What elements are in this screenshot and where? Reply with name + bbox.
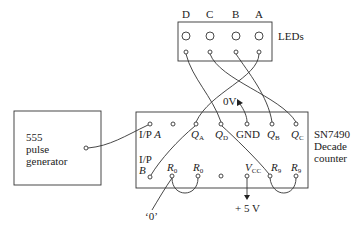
arrow-0v-icon bbox=[237, 99, 243, 106]
pin-nc-top bbox=[171, 122, 175, 126]
pin-qd bbox=[219, 122, 223, 126]
wire-0v-to-gnd bbox=[240, 104, 247, 122]
label-r0-2-r: R bbox=[193, 161, 200, 173]
wire-r9-loop bbox=[270, 178, 296, 193]
counter-line-3: counter bbox=[314, 152, 350, 164]
label-qd-sub: D bbox=[223, 134, 228, 142]
counter-line-1: SN7490 bbox=[314, 128, 350, 140]
label-r9-2-sub: 9 bbox=[298, 167, 302, 175]
label-r0-1: R0 bbox=[167, 162, 177, 177]
led-label-a: A bbox=[255, 9, 263, 20]
label-qa-q: Q bbox=[191, 128, 199, 140]
pulse-generator-label: 555 pulse generator bbox=[26, 131, 68, 167]
label-qc-sub: C bbox=[299, 134, 304, 142]
label-qb: QB bbox=[267, 129, 280, 144]
label-r0-1-r: R bbox=[167, 161, 174, 173]
label-qb-q: Q bbox=[267, 128, 275, 140]
label-qb-sub: B bbox=[275, 134, 280, 142]
pin-ipb bbox=[148, 175, 152, 179]
label-r0-2: R0 bbox=[193, 162, 203, 177]
led-label-b: B bbox=[232, 9, 239, 20]
led-b-icon bbox=[232, 32, 240, 40]
label-vcc-v: V bbox=[245, 161, 252, 173]
label-qc: QC bbox=[291, 129, 304, 144]
label-r0-1-sub: 0 bbox=[174, 167, 178, 175]
led-c-icon bbox=[206, 32, 214, 40]
leds-label: LEDs bbox=[278, 31, 304, 42]
generator-line-1: 555 bbox=[26, 131, 68, 143]
label-ipb-2: B bbox=[139, 165, 146, 176]
led-d-icon bbox=[182, 32, 190, 40]
label-vcc: VCC bbox=[245, 162, 261, 177]
led-b-terminal bbox=[234, 50, 238, 54]
label-ipa: I/P A bbox=[139, 129, 161, 140]
wire-r0-to-zero bbox=[152, 178, 172, 210]
led-c-terminal bbox=[208, 50, 212, 54]
label-r9-1: R9 bbox=[271, 162, 281, 177]
counter-box bbox=[136, 112, 308, 188]
generator-output-terminal bbox=[84, 146, 88, 150]
pin-gnd bbox=[245, 122, 249, 126]
label-qc-q: Q bbox=[291, 128, 299, 140]
label-ipa-text: I/P bbox=[139, 128, 151, 140]
label-ipa-sub: A bbox=[154, 128, 161, 140]
pin-qb bbox=[270, 122, 274, 126]
led-panel-box bbox=[178, 22, 272, 61]
led-label-c: C bbox=[206, 9, 213, 20]
led-a-terminal bbox=[257, 50, 261, 54]
label-r0-2-sub: 0 bbox=[200, 167, 204, 175]
generator-line-3: generator bbox=[26, 155, 68, 167]
wiring-diagram bbox=[0, 0, 360, 231]
wire-r0-loop bbox=[172, 178, 198, 193]
pin-ipa bbox=[148, 122, 152, 126]
label-gnd: GND bbox=[236, 129, 260, 140]
counter-line-2: Decade bbox=[314, 140, 350, 152]
label-qd: QD bbox=[215, 129, 228, 144]
pin-nc-bottom bbox=[219, 174, 223, 178]
pin-qc bbox=[294, 122, 298, 126]
label-qd-q: Q bbox=[215, 128, 223, 140]
zero-input-label: ‘0’ bbox=[145, 211, 158, 222]
label-r9-2: R9 bbox=[291, 162, 301, 177]
zero-volt-label: 0V bbox=[223, 96, 236, 107]
pin-qa bbox=[194, 122, 198, 126]
label-vcc-sub: CC bbox=[252, 167, 261, 175]
led-a-icon bbox=[255, 32, 263, 40]
plus-five-volt-label: + 5 V bbox=[235, 203, 260, 214]
led-d-terminal bbox=[184, 50, 188, 54]
generator-line-2: pulse bbox=[26, 143, 68, 155]
label-qa-sub: A bbox=[199, 134, 204, 142]
label-qa: QA bbox=[191, 129, 204, 144]
label-r9-2-r: R bbox=[291, 161, 298, 173]
label-r9-1-r: R bbox=[271, 161, 278, 173]
label-r9-1-sub: 9 bbox=[278, 167, 282, 175]
led-label-d: D bbox=[182, 9, 190, 20]
counter-label: SN7490 Decade counter bbox=[314, 128, 350, 164]
arrow-5v-icon bbox=[244, 195, 250, 200]
